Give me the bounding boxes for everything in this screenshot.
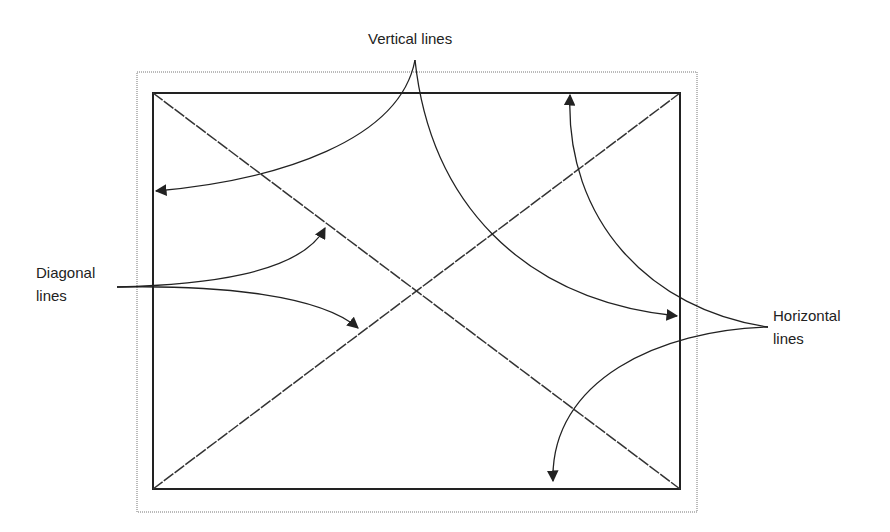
vertical-lines-label: Vertical lines [368, 27, 452, 50]
diagonal-lines-label-2: lines [36, 284, 67, 307]
vertical-arrow-left [156, 60, 415, 191]
vertical-arrow-right [415, 60, 677, 316]
horizontal-lines-label-2: lines [773, 327, 804, 350]
diagonal-arrow-up [117, 228, 325, 287]
diagram-canvas [0, 0, 890, 532]
horizontal-lines-label-1: Horizontal [773, 304, 841, 327]
diagonal-lines-label-1: Diagonal [36, 261, 95, 284]
horizontal-arrow-up [570, 95, 768, 327]
horizontal-arrow-down [553, 327, 768, 481]
